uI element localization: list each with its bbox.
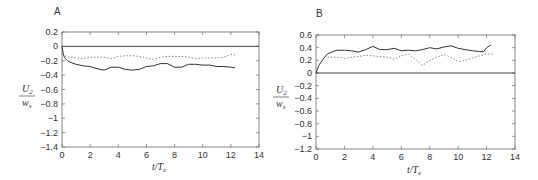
x-axis-label-b: t/Te — [407, 164, 421, 177]
figure: A 024681012140.20−0.2−0.4−0.6−0.8−1−1.2−… — [0, 0, 538, 180]
panel-label-a: A — [54, 6, 61, 17]
svg-text:−0.2: −0.2 — [40, 56, 58, 66]
svg-text:12: 12 — [226, 150, 236, 160]
svg-text:−0.4: −0.4 — [294, 93, 312, 103]
svg-text:0.2: 0.2 — [45, 27, 58, 37]
y-axis-label-b: U2 ws — [273, 84, 289, 111]
svg-text:−1: −1 — [48, 113, 58, 123]
svg-text:6: 6 — [399, 152, 404, 162]
svg-text:14: 14 — [510, 152, 520, 162]
svg-text:0.2: 0.2 — [299, 55, 312, 65]
y-axis-label-a: U2 ws — [19, 83, 35, 110]
svg-text:10: 10 — [453, 152, 463, 162]
svg-text:U2: U2 — [22, 83, 33, 96]
panel-label-b: B — [316, 8, 323, 19]
svg-text:ws: ws — [276, 98, 286, 111]
svg-text:−0.8: −0.8 — [294, 119, 312, 129]
svg-text:14: 14 — [254, 150, 264, 160]
svg-text:10: 10 — [198, 150, 208, 160]
svg-text:−1: −1 — [302, 131, 312, 141]
svg-text:0: 0 — [59, 150, 64, 160]
svg-text:2: 2 — [342, 152, 347, 162]
svg-text:2: 2 — [88, 150, 93, 160]
svg-text:0: 0 — [313, 152, 318, 162]
x-axis-label-a: t/Te — [152, 161, 166, 174]
svg-text:−1.4: −1.4 — [40, 142, 58, 152]
svg-text:8: 8 — [427, 152, 432, 162]
svg-text:6: 6 — [144, 150, 149, 160]
svg-text:0.6: 0.6 — [299, 30, 312, 40]
series-dotted-line — [327, 54, 493, 65]
svg-text:12: 12 — [482, 152, 492, 162]
svg-text:−1.2: −1.2 — [40, 128, 58, 138]
data-lines-a — [62, 46, 259, 70]
svg-text:−0.2: −0.2 — [294, 81, 312, 91]
svg-text:U2: U2 — [276, 84, 287, 97]
chart-panel-a: A 024681012140.20−0.2−0.4−0.6−0.8−1−1.2−… — [19, 6, 264, 174]
svg-text:4: 4 — [116, 150, 121, 160]
svg-text:4: 4 — [370, 152, 375, 162]
series-solid-line — [316, 45, 491, 73]
axis-ticks-b: 024681012140.60.40.20−0.2−0.4−0.6−0.8−1−… — [294, 30, 520, 162]
svg-text:−1.2: −1.2 — [294, 144, 312, 154]
svg-text:0: 0 — [307, 68, 312, 78]
axis-ticks-a: 024681012140.20−0.2−0.4−0.6−0.8−1−1.2−1.… — [40, 27, 264, 160]
chart-panel-b: B 024681012140.60.40.20−0.2−0.4−0.6−0.8−… — [273, 8, 520, 177]
svg-text:−0.8: −0.8 — [40, 99, 58, 109]
plot-frame-b — [316, 35, 515, 149]
svg-text:ws: ws — [22, 97, 32, 110]
svg-text:−0.4: −0.4 — [40, 70, 58, 80]
svg-text:0.4: 0.4 — [299, 43, 312, 53]
svg-text:8: 8 — [172, 150, 177, 160]
plot-frame-a — [62, 32, 259, 147]
svg-text:0: 0 — [53, 41, 58, 51]
series-dotted-line — [62, 46, 235, 59]
data-lines-b — [316, 45, 515, 73]
svg-text:−0.6: −0.6 — [40, 85, 58, 95]
svg-text:−0.6: −0.6 — [294, 106, 312, 116]
